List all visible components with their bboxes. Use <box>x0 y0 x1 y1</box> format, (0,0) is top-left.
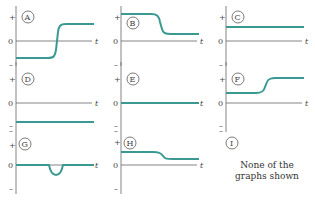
svg-text:0: 0 <box>113 37 118 46</box>
svg-text:C: C <box>235 13 241 22</box>
svg-text:+: + <box>114 138 121 147</box>
svg-text:–: – <box>9 121 13 128</box>
graph-h-plot: + 0 – – t H <box>105 128 210 200</box>
svg-text:+: + <box>9 13 16 22</box>
svg-text:–: – <box>219 128 223 135</box>
none-line-1: None of the <box>222 160 312 171</box>
graph-b-plot: + 0 t B <box>105 0 210 66</box>
svg-text:–: – <box>219 62 223 69</box>
svg-text:I: I <box>230 139 233 148</box>
svg-text:G: G <box>22 140 28 149</box>
graph-f[interactable]: + 0 – – t F <box>210 62 315 128</box>
svg-text:+: + <box>219 13 226 22</box>
graph-e[interactable]: + 0 – – t E <box>105 62 210 128</box>
graph-f-plot: + 0 – – t F <box>210 62 315 128</box>
svg-text:0: 0 <box>218 37 223 46</box>
svg-text:t: t <box>305 37 309 46</box>
svg-text:0: 0 <box>8 37 13 46</box>
graph-a[interactable]: + 0 t A <box>0 0 105 66</box>
svg-text:–: – <box>219 121 223 128</box>
graph-c-plot: + 0 t C <box>210 0 315 66</box>
none-of-graphs-label: None of the graphs shown <box>222 160 312 182</box>
svg-text:+: + <box>114 75 121 84</box>
svg-text:B: B <box>130 19 136 28</box>
svg-text:–: – <box>114 121 118 128</box>
svg-text:+: + <box>219 75 226 84</box>
graph-g[interactable]: + 0 – – t G <box>0 128 105 194</box>
svg-text:0: 0 <box>8 161 13 170</box>
svg-text:–: – <box>114 184 118 193</box>
svg-text:0: 0 <box>113 161 118 170</box>
svg-text:D: D <box>25 75 31 84</box>
graph-h[interactable]: + 0 – – t H <box>105 128 210 194</box>
svg-text:t: t <box>95 161 99 170</box>
svg-text:+: + <box>114 13 121 22</box>
svg-text:0: 0 <box>218 99 223 108</box>
svg-text:H: H <box>127 139 134 148</box>
svg-text:t: t <box>305 99 309 108</box>
graph-g-plot: + 0 – – t G <box>0 128 105 200</box>
svg-text:E: E <box>130 75 136 84</box>
graph-a-plot: + 0 t A <box>0 0 105 66</box>
svg-text:F: F <box>235 75 241 84</box>
graph-c[interactable]: + 0 t C <box>210 0 315 66</box>
svg-text:t: t <box>95 99 99 108</box>
graph-d[interactable]: + 0 – – t D <box>0 62 105 128</box>
svg-text:+: + <box>9 75 16 84</box>
svg-text:0: 0 <box>8 99 13 108</box>
svg-text:t: t <box>200 99 204 108</box>
svg-text:–: – <box>114 128 118 135</box>
graph-d-plot: + 0 – – t D <box>0 62 105 128</box>
svg-text:t: t <box>95 37 99 46</box>
graph-e-plot: + 0 – – t E <box>105 62 210 128</box>
svg-text:–: – <box>9 62 13 69</box>
svg-text:–: – <box>114 62 118 69</box>
graph-b[interactable]: + 0 t B <box>105 0 210 66</box>
svg-text:0: 0 <box>113 99 118 108</box>
svg-text:–: – <box>9 184 13 193</box>
svg-text:A: A <box>24 13 31 22</box>
none-line-2: graphs shown <box>222 171 312 182</box>
svg-text:–: – <box>9 128 13 135</box>
svg-text:t: t <box>200 161 204 170</box>
svg-text:+: + <box>9 141 16 150</box>
svg-text:t: t <box>200 37 204 46</box>
